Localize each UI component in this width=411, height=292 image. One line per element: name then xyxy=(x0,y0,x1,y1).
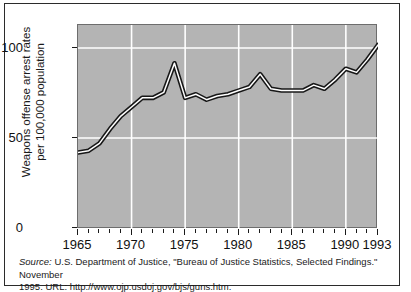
x-tick-mark-1966 xyxy=(88,229,89,233)
x-tick-mark-1991 xyxy=(356,229,357,233)
x-tick-label-1965: 1965 xyxy=(63,237,92,252)
y-axis-title: Weapons offense arrest rates per 100,000… xyxy=(19,2,47,202)
x-tick-mark-1972 xyxy=(152,229,153,233)
gridlines xyxy=(78,25,378,229)
x-tick-mark-1973 xyxy=(163,229,164,233)
x-tick-label-1993: 1993 xyxy=(363,237,392,252)
figure-panel: Weapons offense arrest rates per 100,000… xyxy=(4,3,400,286)
source-caption: Source: U.S. Department of Justice, "Bur… xyxy=(19,256,391,292)
x-tick-mark-1986 xyxy=(302,229,303,233)
y-tick-label-100: 100 xyxy=(0,40,23,55)
x-tick-mark-1980 xyxy=(238,229,239,235)
x-tick-mark-1977 xyxy=(206,229,207,233)
x-tick-mark-1976 xyxy=(195,229,196,233)
plot-region xyxy=(77,24,377,228)
chart-area: Weapons offense arrest rates per 100,000… xyxy=(5,4,399,252)
x-tick-mark-1971 xyxy=(141,229,142,233)
series-core xyxy=(78,45,378,152)
x-tick-mark-1983 xyxy=(270,229,271,233)
x-tick-mark-1969 xyxy=(120,229,121,233)
x-tick-mark-1987 xyxy=(313,229,314,233)
source-label: Source: xyxy=(19,256,52,267)
x-tick-mark-1982 xyxy=(259,229,260,233)
y-tick-label-50: 50 xyxy=(0,130,23,145)
x-tick-mark-1981 xyxy=(248,229,249,233)
x-tick-mark-1988 xyxy=(323,229,324,233)
x-tick-label-1990: 1990 xyxy=(330,237,359,252)
x-tick-mark-1975 xyxy=(184,229,185,235)
series-outline xyxy=(78,45,378,152)
x-tick-mark-1968 xyxy=(109,229,110,233)
data-series-weapons-arrest-rate xyxy=(78,45,378,152)
x-tick-mark-1993 xyxy=(377,229,378,235)
x-tick-mark-1992 xyxy=(366,229,367,233)
source-line1: U.S. Department of Justice, "Bureau of J… xyxy=(19,256,377,280)
source-line2: 1995. URL: http://www.ojp.usdoj.gov/bjs/… xyxy=(19,281,231,292)
chart-svg xyxy=(78,25,378,229)
x-tick-label-1970: 1970 xyxy=(116,237,145,252)
x-tick-mark-1990 xyxy=(345,229,346,235)
x-tick-label-1975: 1975 xyxy=(170,237,199,252)
x-tick-mark-1967 xyxy=(98,229,99,233)
x-tick-mark-1989 xyxy=(334,229,335,233)
x-tick-label-1985: 1985 xyxy=(277,237,306,252)
x-tick-mark-1965 xyxy=(77,229,78,235)
x-tick-label-1980: 1980 xyxy=(223,237,252,252)
x-tick-mark-1970 xyxy=(131,229,132,235)
x-tick-mark-1978 xyxy=(216,229,217,233)
x-tick-mark-1985 xyxy=(291,229,292,235)
y-tick-label-0: 0 xyxy=(0,220,23,235)
x-tick-mark-1974 xyxy=(173,229,174,233)
x-tick-mark-1984 xyxy=(281,229,282,233)
x-tick-mark-1979 xyxy=(227,229,228,233)
